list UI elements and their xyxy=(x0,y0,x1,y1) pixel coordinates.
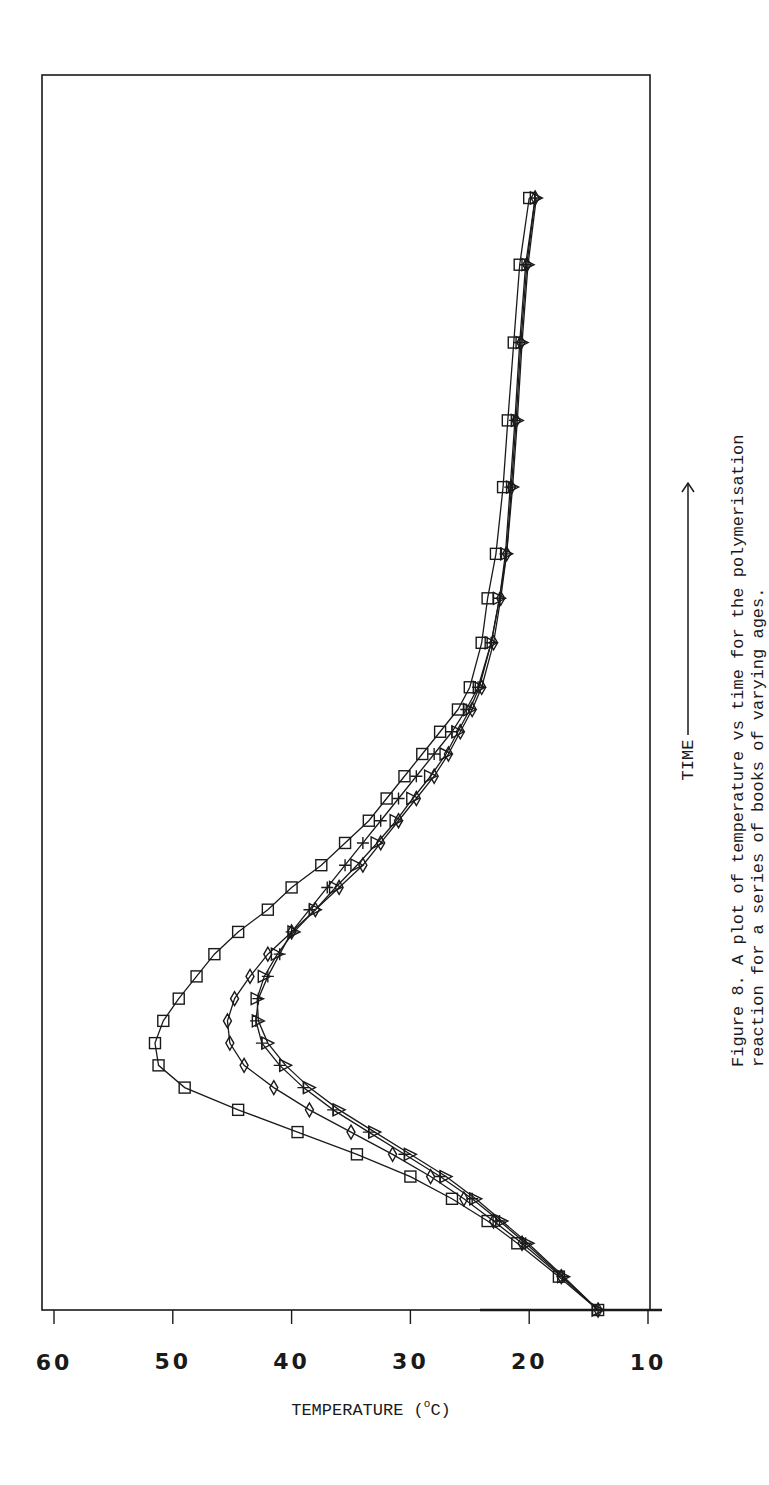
y-tick-label: 40 xyxy=(273,1350,310,1375)
x-axis-title-group: TIME xyxy=(679,483,698,780)
series-line xyxy=(227,198,598,1310)
y-tick-label: 20 xyxy=(511,1350,548,1375)
rotated-figure: 102030405060 TEMPERATURE (oC) TIME Figur… xyxy=(0,0,769,1485)
y-axis-title: TEMPERATURE (oC) xyxy=(291,1398,451,1420)
x-axis-title: TIME xyxy=(679,740,698,781)
chart: 102030405060 TEMPERATURE (oC) TIME Figur… xyxy=(0,0,769,1485)
series-line xyxy=(155,198,598,1310)
figure-caption-line-1: Figure 8. A plot of temperature vs time … xyxy=(729,434,748,1067)
series-plus xyxy=(250,192,604,1316)
plus-marker-icon xyxy=(410,770,422,782)
plus-marker-icon xyxy=(428,748,440,760)
plus-marker-icon xyxy=(339,859,351,871)
plus-marker-icon xyxy=(357,837,369,849)
series-diamond xyxy=(223,191,602,1317)
y-tick-label: 10 xyxy=(630,1350,667,1375)
series-square xyxy=(149,193,603,1316)
temperature-axis: 102030405060 xyxy=(36,1310,667,1375)
page: 102030405060 TEMPERATURE (oC) TIME Figur… xyxy=(0,0,769,1485)
series-line xyxy=(256,198,598,1310)
y-tick-label: 60 xyxy=(36,1350,73,1375)
plus-marker-icon xyxy=(393,792,405,804)
data-series xyxy=(149,191,604,1317)
plus-marker-icon xyxy=(375,815,387,827)
y-tick-label: 50 xyxy=(154,1350,191,1375)
figure-caption-line-2: reaction for a series of books of varyin… xyxy=(749,588,768,1067)
plot-frame xyxy=(42,75,662,1310)
y-tick-label: 30 xyxy=(392,1350,429,1375)
